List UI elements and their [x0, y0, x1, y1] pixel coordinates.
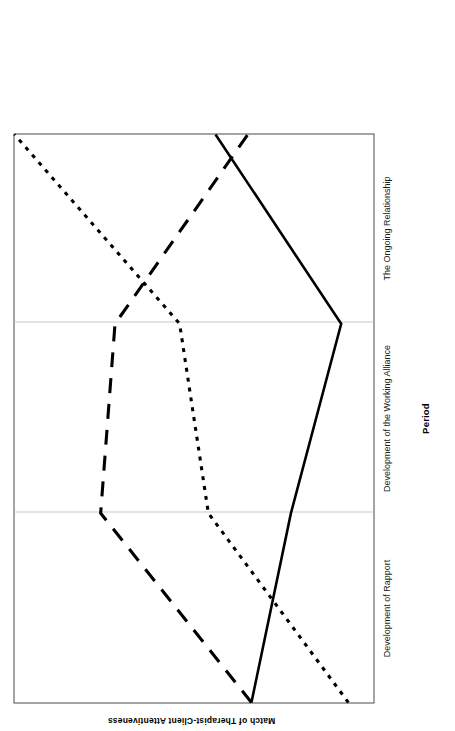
xtick-text: Development of Rapport [381, 559, 391, 657]
line-insecure-type-1 [14, 134, 348, 702]
xtick-label-development-of-the-working-alliance: Development of the Working Alliance [381, 323, 392, 513]
xtick-label-the-ongoing-relationship: The Ongoing Relationship [381, 133, 392, 323]
series-lines [14, 134, 373, 702]
y-axis-title: Match of Therapist-Client Attentiveness [11, 716, 372, 726]
line-insecure-type-2 [100, 134, 251, 702]
x-axis-title: Period [419, 133, 430, 703]
xtick-label-development-of-rapport: Development of Rapport [381, 513, 392, 703]
chart-figure: Insecure Type 1 Insecure Type 2 Secure [0, 0, 455, 731]
plot-area [13, 133, 374, 703]
line-secure [215, 134, 341, 702]
xtick-text: Development of the Working Alliance [381, 345, 391, 492]
xtick-text: The Ongoing Relationship [381, 176, 391, 280]
